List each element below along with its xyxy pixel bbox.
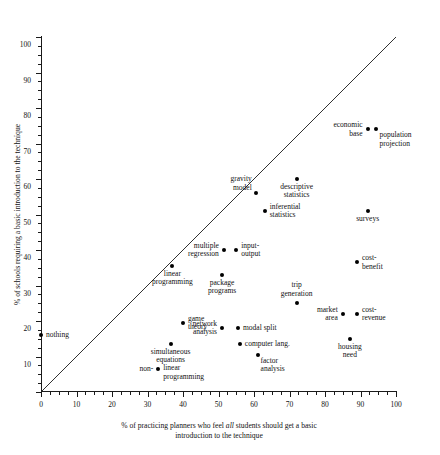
point-label: package programs (208, 279, 236, 296)
x-tick-minor (210, 392, 211, 395)
y-tick-minor (38, 259, 41, 260)
x-tick-major (396, 392, 397, 397)
y-tick-minor (38, 64, 41, 65)
y-tick-minor (38, 232, 41, 233)
data-point (169, 342, 173, 346)
x-tick-major (41, 392, 42, 397)
x-tick-minor (236, 392, 237, 395)
y-tick-minor (38, 161, 41, 162)
y-tick-minor (38, 90, 41, 91)
x-tick-major (254, 392, 255, 397)
data-point (341, 312, 345, 316)
y-tick-minor (38, 294, 41, 295)
data-point (295, 177, 299, 181)
point-label: inferential statistics (270, 203, 301, 220)
y-tick-major (36, 73, 41, 74)
x-tick-major (361, 392, 362, 397)
x-tick-minor (68, 392, 69, 395)
y-tick-minor (38, 206, 41, 207)
y-tick-minor (38, 117, 41, 118)
x-tick-minor (165, 392, 166, 395)
data-point (295, 301, 299, 305)
y-tick-minor (38, 152, 41, 153)
x-tick-minor (316, 392, 317, 395)
y-tick-major (36, 250, 41, 251)
y-tick-minor (38, 197, 41, 198)
point-label: linear programming (163, 364, 204, 381)
y-tick-minor (38, 383, 41, 384)
x-tick-label: 20 (108, 401, 116, 409)
y-tick-label: 30 (24, 289, 32, 297)
point-label: population projection (379, 131, 411, 148)
y-tick-label: 10 (24, 360, 32, 368)
point-label: computer lang. (245, 340, 290, 348)
y-axis-title: % of schools requiring a basic introduct… (12, 37, 24, 392)
x-axis-title-emphasis: all (226, 421, 234, 430)
y-axis-line (41, 36, 42, 392)
point-label: descriptive statistics (280, 183, 313, 200)
identity-reference-line (41, 37, 396, 392)
y-tick-minor (38, 348, 41, 349)
y-tick-minor (38, 81, 41, 82)
plot-area: 0102030405060708090100 10203040506070809… (41, 37, 396, 392)
y-tick-minor (38, 303, 41, 304)
x-tick-label: 30 (144, 401, 152, 409)
y-tick-minor (38, 312, 41, 313)
x-tick-major (112, 392, 113, 397)
y-tick-label: 20 (24, 325, 32, 333)
x-tick-major (148, 392, 149, 397)
y-tick-minor (38, 330, 41, 331)
x-tick-minor (245, 392, 246, 395)
scatter-plot-figure: 0102030405060708090100 10203040506070809… (0, 0, 440, 455)
y-tick-label: 70 (24, 147, 32, 155)
data-point (181, 321, 185, 325)
data-point (348, 337, 352, 341)
y-tick-minor (38, 170, 41, 171)
data-point (366, 209, 370, 213)
point-label: network analysis (192, 320, 217, 337)
y-tick-label: 80 (24, 112, 32, 120)
x-tick-minor (174, 392, 175, 395)
y-tick-major (36, 179, 41, 180)
y-tick-minor (38, 55, 41, 56)
x-tick-minor (369, 392, 370, 395)
y-tick-minor (38, 99, 41, 100)
x-tick-minor (387, 392, 388, 395)
x-tick-minor (263, 392, 264, 395)
x-axis-title-pre: % of practicing planners who feel (121, 421, 226, 430)
x-tick-minor (139, 392, 140, 395)
x-tick-label: 10 (73, 401, 81, 409)
x-tick-major (183, 392, 184, 397)
x-tick-minor (192, 392, 193, 395)
data-point (220, 273, 224, 277)
x-tick-major (325, 392, 326, 397)
y-tick-major (36, 286, 41, 287)
data-point (222, 248, 226, 252)
x-tick-minor (201, 392, 202, 395)
x-tick-label: 60 (250, 401, 258, 409)
x-tick-minor (334, 392, 335, 395)
point-label: housing need (338, 343, 362, 360)
point-label: market area (317, 306, 338, 323)
x-tick-minor (50, 392, 51, 395)
y-tick-major (36, 321, 41, 322)
x-tick-label: 90 (357, 401, 365, 409)
x-tick-minor (59, 392, 60, 395)
x-tick-major (219, 392, 220, 397)
point-label: cost- benefit (362, 254, 383, 271)
y-tick-minor (38, 374, 41, 375)
point-label: nothing (46, 331, 69, 339)
point-label: linear programming (152, 270, 193, 287)
data-point (256, 353, 260, 357)
y-tick-major (36, 37, 41, 38)
y-tick-label: 60 (24, 183, 32, 191)
point-label: cost- revenue (362, 306, 386, 323)
x-tick-minor (227, 392, 228, 395)
x-tick-major (290, 392, 291, 397)
x-tick-minor (307, 392, 308, 395)
x-tick-minor (272, 392, 273, 395)
point-label: non- (139, 365, 153, 373)
y-tick-label: 40 (24, 254, 32, 262)
x-tick-label: 100 (390, 401, 401, 409)
data-point (366, 127, 370, 131)
